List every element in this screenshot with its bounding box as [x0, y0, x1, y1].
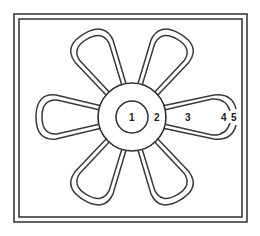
label-5: 5 — [231, 112, 237, 123]
label-1: 1 — [129, 112, 135, 123]
label-2: 2 — [154, 112, 160, 123]
petal-left-outer-line — [36, 95, 102, 139]
flower-diagram: 1 2 3 4 5 — [0, 0, 260, 236]
petal-left-inner-line — [42, 100, 100, 134]
petal-left — [36, 95, 102, 139]
label-3: 3 — [185, 112, 191, 123]
label-4: 4 — [221, 112, 227, 123]
